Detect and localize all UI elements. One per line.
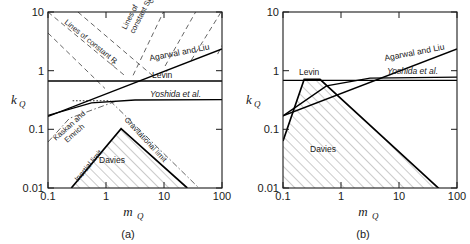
y-tick-label-3: 10 [32,6,44,18]
annot-yoshida: Yoshida et al. [150,89,201,99]
y-axis-title-a: k Q [11,92,26,109]
x-tick-label-2: 10 [158,190,170,202]
panel-a: 0.1 1 10 100 0.01 0.1 1 10 m Q k Q Lines… [0,0,235,244]
x-tick-label-3: 100 [448,190,466,202]
x-tick-label-1: 1 [103,190,109,202]
x-axis-title-b: m Q [358,204,379,221]
annot-davies: Davies [310,144,336,154]
annot-kaskan-emrich: Kaskan and Emrich [51,109,93,149]
annot-agarwal-liu: Agarwal and Liu [383,41,445,62]
y-tick-label-3: 10 [267,6,279,18]
x-axis-title-a: m Q [123,204,144,221]
panel-caption-a: (a) [121,228,134,240]
x-tick-label-3: 100 [213,190,231,202]
y-axis-title-sub: Q [19,99,26,109]
y-axis-title-main: k [11,92,17,107]
y-tick-label-2: 1 [38,65,44,77]
lines-constant-stc-a [133,12,235,75]
y-tick-label-1: 0.1 [29,123,44,135]
panel-b-svg: 0.1 1 10 100 0.01 0.1 1 10 m Q k Q Agarw… [235,0,470,244]
annot-agarwal-liu: Agarwal and Liu [148,41,210,62]
panel-caption-b: (b) [356,228,369,240]
panel-b: 0.1 1 10 100 0.01 0.1 1 10 m Q k Q Agarw… [235,0,470,244]
y-tick-label-1: 0.1 [264,123,279,135]
x-axis-title-sub: Q [372,211,379,221]
x-axis-title-main: m [358,204,367,219]
y-tick-label-0: 0.01 [258,182,279,194]
y-tick-label-2: 1 [273,65,279,77]
y-axis-title-main: k [246,92,252,107]
x-tick-label-1: 1 [338,190,344,202]
annot-lines-constant-rc: Lines of constant R c [61,18,120,68]
annot-levin: Levin [152,70,173,80]
svg-text:Lines of constant R: Lines of constant R [63,18,120,66]
y-tick-label-0: 0.01 [23,182,44,194]
yoshida-curve-a [48,100,222,116]
x-axis-title-sub: Q [137,211,144,221]
x-axis-title-main: m [123,204,132,219]
y-axis-title-sub: Q [254,99,261,109]
figure-container: 0.1 1 10 100 0.01 0.1 1 10 m Q k Q Lines… [0,0,470,244]
annot-levin: Levin [299,67,320,77]
annot-lines-constant-stc: Lines of constant St c [120,0,156,36]
davies-region-b [283,79,441,188]
x-tick-label-2: 10 [393,190,405,202]
annot-yoshida: Yoshida et al. [387,66,438,76]
annot-davies: Davies [99,155,125,165]
panel-a-svg: 0.1 1 10 100 0.01 0.1 1 10 m Q k Q Lines… [0,0,235,244]
y-axis-title-b: k Q [246,92,261,109]
